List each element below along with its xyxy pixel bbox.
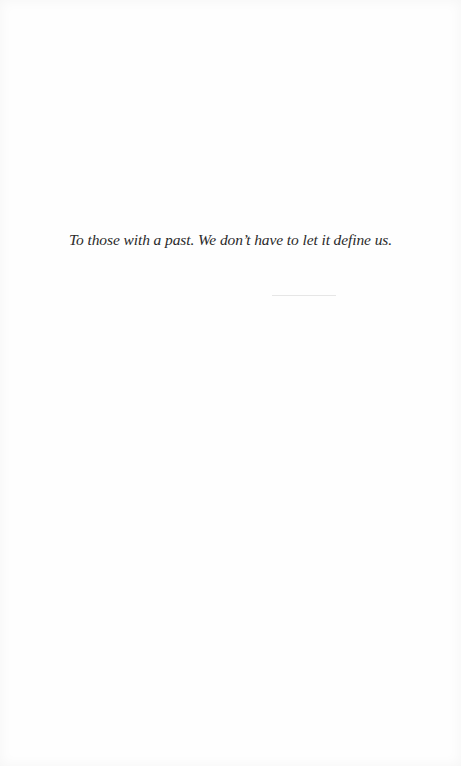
dedication-text: To those with a past. We don’t have to l…	[0, 231, 461, 249]
decorative-rule	[272, 295, 336, 296]
book-page: To those with a past. We don’t have to l…	[0, 0, 461, 766]
